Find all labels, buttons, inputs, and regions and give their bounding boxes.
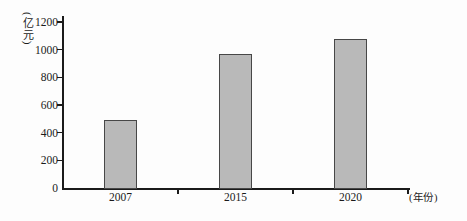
- x-tick-mark: [177, 189, 179, 194]
- bar-2020: [334, 39, 367, 190]
- bar-2007: [104, 120, 137, 189]
- y-tick-label: 200: [16, 153, 58, 167]
- y-tick-mark: [57, 49, 62, 51]
- y-tick-label: 600: [16, 98, 58, 112]
- x-axis-unit-label: (年份): [409, 191, 438, 204]
- y-tick-mark: [57, 160, 62, 162]
- x-tick-label: 2020: [319, 191, 383, 204]
- y-tick-label: 1000: [16, 43, 58, 57]
- x-tick-label: 2015: [204, 191, 268, 204]
- y-tick-mark: [57, 21, 62, 23]
- y-tick-label: 1200: [16, 15, 58, 29]
- y-tick-mark: [57, 77, 62, 79]
- y-tick-label: 400: [16, 126, 58, 140]
- y-tick-label: 0: [16, 181, 58, 195]
- bar-2015: [219, 54, 252, 190]
- x-tick-mark: [292, 189, 294, 194]
- y-tick-mark: [57, 104, 62, 106]
- x-tick-label: 2007: [89, 191, 153, 204]
- y-tick-label: 800: [16, 70, 58, 84]
- y-axis-line: [62, 16, 64, 189]
- bar-chart: (亿元) 020040060080010001200 200720152020 …: [0, 0, 467, 221]
- y-tick-mark: [57, 132, 62, 134]
